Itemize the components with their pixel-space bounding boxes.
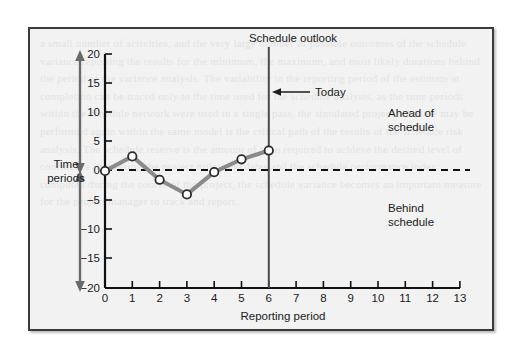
today-label: Today	[315, 86, 346, 98]
data-point	[183, 190, 191, 198]
x-tick-label: 12	[426, 292, 439, 304]
x-tick-label: 4	[211, 292, 218, 304]
x-tick-label: 8	[320, 292, 326, 304]
behind-schedule-line1: Behind	[388, 202, 424, 214]
data-point	[155, 176, 163, 184]
schedule-variance-markers	[101, 146, 273, 198]
y-tick-label: 5	[94, 135, 100, 147]
schedule-outlook-chart: 20 15 10 5 0 −5 −10 −15 −20	[0, 0, 515, 346]
x-axis-title: Reporting period	[240, 310, 325, 322]
data-point	[101, 167, 109, 175]
y-tick-label: −5	[87, 194, 100, 206]
ahead-of-schedule-line1: Ahead of	[388, 107, 435, 119]
today-arrow-head	[272, 88, 281, 96]
chart-title: Schedule outlook	[249, 32, 337, 44]
x-tick-label: 2	[156, 292, 162, 304]
y-tick-label: −10	[80, 223, 100, 235]
figure-container: a small number of activities, and the ve…	[0, 0, 515, 346]
behind-schedule-line2: schedule	[388, 216, 434, 228]
x-tick-label: 5	[238, 292, 244, 304]
ahead-of-schedule-line2: schedule	[388, 121, 434, 133]
behind-schedule-annotation: Behind schedule	[388, 202, 434, 228]
x-tick-label: 9	[347, 292, 353, 304]
y-tick-label: 20	[87, 48, 100, 60]
data-point	[128, 152, 136, 160]
x-tick-label: 3	[184, 292, 190, 304]
y-tick-label: 0	[94, 164, 100, 176]
data-point	[265, 146, 273, 154]
x-tick-label: 10	[372, 292, 385, 304]
x-tick-label: 6	[266, 292, 272, 304]
time-periods-arrow-up-head	[75, 50, 85, 61]
x-tick-label: 0	[102, 292, 108, 304]
y-tick-label: 10	[87, 106, 100, 118]
y-tick-label: −15	[80, 252, 100, 264]
data-point	[237, 155, 245, 163]
y-tick-label: 15	[87, 77, 100, 89]
today-annotation: Today	[272, 86, 346, 98]
y-axis-title-line1: Time	[53, 158, 78, 170]
x-tick-label: 13	[454, 292, 467, 304]
y-axis-title-line2: periods	[47, 172, 85, 184]
x-tick-label: 7	[293, 292, 299, 304]
ahead-of-schedule-annotation: Ahead of schedule	[388, 107, 435, 133]
x-tick-label: 11	[399, 292, 411, 304]
y-axis-tick-labels: 20 15 10 5 0 −5 −10 −15 −20	[80, 48, 100, 294]
x-tick-label: 1	[129, 292, 135, 304]
data-point	[210, 168, 218, 176]
x-axis-tick-labels: 0 1 2 3 4 5 6 7 8 9 10 11 12 13	[102, 292, 467, 304]
